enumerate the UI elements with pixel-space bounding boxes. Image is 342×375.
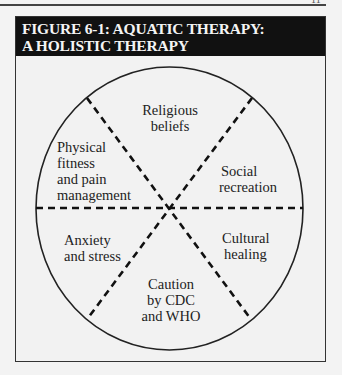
segment-text: Social: [219, 163, 277, 179]
segment-text: management: [57, 187, 131, 203]
segment-physical-fitness: Physical fitness and pain management: [57, 139, 131, 203]
segment-religious-beliefs: Religious beliefs: [122, 102, 218, 134]
segment-caution-cdc-who: Caution by CDC and WHO: [131, 276, 211, 324]
segment-text: by CDC: [131, 292, 211, 308]
segment-text: and WHO: [131, 308, 211, 324]
segment-text: Physical: [57, 139, 131, 155]
segment-cultural-healing: Cultural healing: [222, 230, 270, 262]
segment-text: fitness: [57, 155, 131, 171]
segment-text: Cultural: [222, 230, 270, 246]
segment-text: Anxiety: [64, 232, 121, 248]
segment-text: and stress: [64, 248, 121, 264]
segment-text: recreation: [219, 179, 277, 195]
segment-text: beliefs: [122, 118, 218, 134]
segment-social-recreation: Social recreation: [219, 163, 277, 195]
segment-text: healing: [222, 246, 270, 262]
segment-text: and pain: [57, 171, 131, 187]
segment-text: Caution: [131, 276, 211, 292]
segment-text: Religious: [122, 102, 218, 118]
segment-anxiety-stress: Anxiety and stress: [64, 232, 121, 264]
